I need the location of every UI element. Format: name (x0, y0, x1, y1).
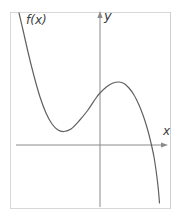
function-plot (0, 0, 182, 218)
function-curve (19, 13, 160, 203)
function-label: f(x) (26, 14, 47, 26)
y-axis-arrow-icon (97, 11, 102, 18)
y-axis-label: y (104, 9, 112, 22)
x-axis-label: x (163, 125, 170, 137)
x-axis-arrow-icon (161, 142, 168, 147)
figure: f(x) y x (0, 0, 182, 218)
